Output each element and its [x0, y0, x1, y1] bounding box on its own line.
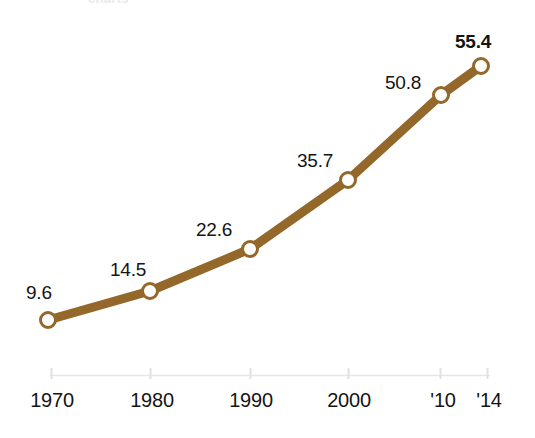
x-tick-label-1970: 1970	[30, 389, 74, 412]
data-point-marker	[474, 59, 489, 74]
value-label-2014: 55.4	[455, 31, 491, 53]
x-tick-label-1980: 1980	[130, 389, 174, 412]
chart-container: charts 9.6 14.5 22.6 35.7 50.8 55.4 1970…	[0, 0, 535, 438]
plot-area	[0, 0, 535, 438]
value-label-1980: 14.5	[110, 259, 146, 281]
x-tick-label-2010: '10	[430, 389, 455, 412]
series-line	[48, 66, 481, 320]
series-line-group	[48, 66, 481, 320]
data-point-marker	[341, 173, 356, 188]
x-tick-label-2000: 2000	[327, 389, 371, 412]
x-tick-label-2014: '14	[476, 389, 501, 412]
x-axis	[50, 368, 490, 379]
data-point-markers	[41, 59, 489, 328]
data-point-marker	[434, 88, 449, 103]
data-point-marker	[143, 284, 158, 299]
value-label-2010: 50.8	[385, 72, 421, 94]
value-label-1970: 9.6	[26, 282, 52, 304]
value-label-1990: 22.6	[196, 219, 232, 241]
data-point-marker	[41, 313, 56, 328]
data-point-marker	[243, 242, 258, 257]
value-label-2000: 35.7	[297, 150, 333, 172]
x-tick-label-1990: 1990	[229, 389, 273, 412]
